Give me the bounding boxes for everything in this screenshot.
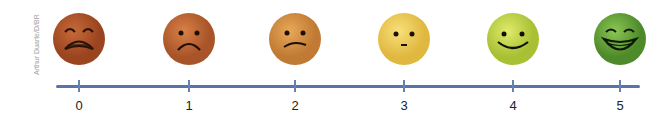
tick-4 (512, 80, 514, 92)
face-2-slightly-frowning-icon (268, 12, 322, 66)
tick-3 (403, 80, 405, 92)
tick-label-3: 3 (394, 98, 414, 113)
scale-axis-line (56, 85, 640, 88)
face-5-grinning-icon (593, 12, 647, 66)
photo-credit: Arthur Duarte/D/BR (33, 14, 40, 75)
face-3-neutral-icon (377, 12, 431, 66)
tick-label-5: 5 (610, 98, 630, 113)
face-4-smiling-icon (486, 12, 540, 66)
tick-label-0: 0 (69, 98, 89, 113)
tick-label-4: 4 (503, 98, 523, 113)
tick-label-1: 1 (179, 98, 199, 113)
tick-1 (188, 80, 190, 92)
tick-label-2: 2 (285, 98, 305, 113)
tick-0 (78, 80, 80, 92)
tick-2 (294, 80, 296, 92)
tick-5 (619, 80, 621, 92)
face-1-sad-icon (162, 12, 216, 66)
face-0-crying-icon (52, 12, 106, 66)
